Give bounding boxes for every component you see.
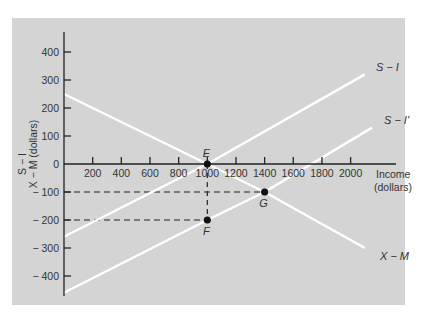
x-axis-label-line1: Income [376,168,411,180]
y-tick-label: 300 [41,74,59,86]
x-tick-label: 1600 [282,167,306,179]
point-e [204,160,211,167]
y-tick-label: − 300 [32,242,59,254]
label-s-minus-i: S − I [376,61,399,73]
y-tick-label: 0 [53,158,59,170]
x-tick-label: 200 [84,167,102,179]
x-axis-label-line2: (dollars) [374,181,412,193]
point-label-g: G [259,197,268,209]
y-tick-label: − 200 [32,214,59,226]
x-tick-label: 1400 [253,167,277,179]
x-tick-label: 1200 [224,167,248,179]
x-tick-label: 800 [170,167,188,179]
x-tick-label: 1800 [310,167,334,179]
point-g [261,188,268,195]
x-tick-label: 400 [113,167,131,179]
x-tick-label: 600 [141,167,159,179]
label-x-minus-m: X − M [379,250,410,262]
y-tick-label: 100 [41,130,59,142]
y-tick-label: − 400 [32,270,59,282]
x-tick-label: 1000 [196,167,220,179]
chart: 4003002001000− 100− 200− 300− 400 200400… [0,0,438,318]
y-axis-label-line2: X − M (dollars) [27,120,39,189]
x-tick-label: 2000 [339,167,363,179]
point-f [204,216,211,223]
point-label-e: E [203,147,211,159]
y-tick-label: 200 [41,102,59,114]
label-s-minus-i-prime: S − I' [384,114,410,126]
y-tick-label: 400 [41,46,59,58]
